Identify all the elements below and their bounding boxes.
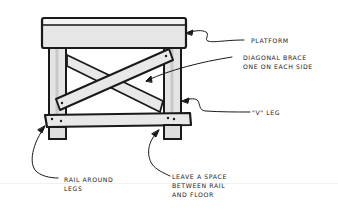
left-leg-foot [49, 127, 66, 139]
diagonal-brace-text-line2: ONE ON EACH SIDE [243, 62, 313, 71]
label-platform: PLATFORM [251, 36, 289, 45]
v-leg-leader [183, 99, 250, 112]
rail-text-line1: RAIL AROUND [64, 175, 113, 184]
brace-arrowhead [146, 76, 152, 82]
platform-leader [188, 31, 244, 42]
label-leave-space: LEAVE A SPACE BETWEEN RAIL AND FLOOR [172, 172, 227, 199]
platform-sketch [0, 0, 338, 212]
label-diagonal-brace: DIAGONAL BRACE ONE ON EACH SIDE [243, 53, 313, 71]
v-leg-text: "V" LEG [252, 108, 280, 117]
rail-text-line2: LEGS [64, 184, 113, 193]
space-text-line2: BETWEEN RAIL [172, 181, 227, 190]
label-rail-around-legs: RAIL AROUND LEGS [64, 175, 113, 193]
v-leg-arrowhead [182, 98, 189, 103]
diagonal-brace-text-line1: DIAGONAL BRACE [243, 53, 313, 62]
platform-label-text: PLATFORM [251, 36, 289, 45]
space-arrowhead [152, 130, 159, 137]
platform-top [42, 18, 186, 48]
space-text-line1: LEAVE A SPACE [172, 172, 227, 181]
label-v-leg: "V" LEG [252, 108, 280, 117]
space-text-line3: AND FLOOR [172, 190, 227, 199]
rail-arrowhead [38, 126, 45, 133]
right-leg-foot [164, 125, 181, 139]
